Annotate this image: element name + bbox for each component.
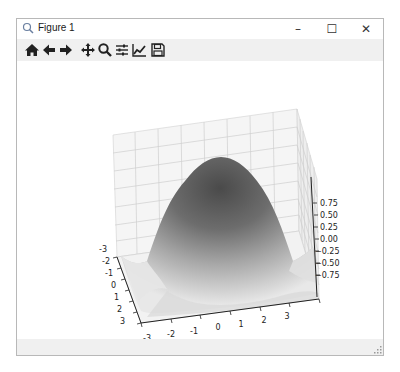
x-tick-label: 1 xyxy=(238,320,243,329)
status-bar xyxy=(17,339,383,355)
pan-icon[interactable] xyxy=(80,42,96,58)
z-tick-label: 0.25 xyxy=(320,223,338,232)
home-icon[interactable] xyxy=(24,42,40,58)
x-tick-label: 0 xyxy=(215,323,220,332)
y-tick-label: -2 xyxy=(102,257,110,266)
minimize-button[interactable]: – xyxy=(281,19,315,39)
x-tick-label: -2 xyxy=(167,330,175,339)
minimize-icon: – xyxy=(295,22,301,36)
y-tick-label: 2 xyxy=(117,305,122,314)
save-floppy-icon[interactable] xyxy=(150,42,166,58)
close-icon: ✕ xyxy=(361,22,371,36)
y-tick-label: -3 xyxy=(99,245,107,254)
z-tick-label: 0.50 xyxy=(320,211,338,220)
y-tick-label: 0 xyxy=(111,281,116,290)
surface-3d-plot[interactable]: -3 -2 -1 0 1 2 3 - xyxy=(17,61,383,341)
z-tick-label: 0.75 xyxy=(320,199,338,208)
x-tick-label: -1 xyxy=(190,327,198,336)
figure-canvas[interactable]: -3 -2 -1 0 1 2 3 - xyxy=(17,61,383,341)
y-tick-label: 1 xyxy=(114,293,119,302)
close-button[interactable]: ✕ xyxy=(349,19,383,39)
z-tick-label: −0.25 xyxy=(315,247,340,256)
x-tick-label: 2 xyxy=(261,316,266,325)
maximize-icon: ☐ xyxy=(327,22,338,36)
y-tick-label: 3 xyxy=(120,317,125,326)
edit-axes-icon[interactable] xyxy=(131,42,147,58)
z-tick-label: −0.50 xyxy=(315,259,340,268)
title-bar[interactable]: Figure 1 – ☐ ✕ xyxy=(17,19,383,39)
resize-grip-icon[interactable] xyxy=(374,346,382,354)
z-tick-label: 0.00 xyxy=(320,235,338,244)
subplots-config-icon[interactable] xyxy=(114,42,130,58)
x-tick-label: 3 xyxy=(284,312,289,321)
window-title: Figure 1 xyxy=(38,22,75,33)
y-tick-label: -1 xyxy=(105,269,113,278)
zoom-magnifier-icon[interactable] xyxy=(97,42,113,58)
matplotlib-app-icon xyxy=(22,22,34,34)
figure-window: Figure 1 – ☐ ✕ xyxy=(16,18,384,356)
z-tick-label: −0.75 xyxy=(315,271,340,280)
forward-arrow-icon[interactable] xyxy=(58,42,74,58)
back-arrow-icon[interactable] xyxy=(41,42,57,58)
maximize-button[interactable]: ☐ xyxy=(315,19,349,39)
navigation-toolbar xyxy=(17,39,383,61)
